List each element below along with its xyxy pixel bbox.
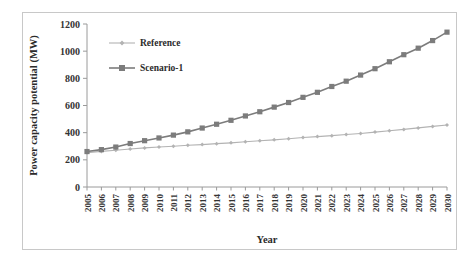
series-line-scenario-1 [87,32,447,151]
chart-figure: 0200400600800100012002005200620072008200… [0,0,476,263]
data-point-marker [431,124,435,128]
data-point-marker [373,130,377,134]
x-axis-tick-label: 2017 [255,194,265,213]
x-axis-tick-label: 2023 [342,194,352,213]
data-point-marker [330,134,334,138]
x-axis-tick-label: 2016 [241,194,251,213]
data-point-marker [186,143,190,147]
data-point-marker [143,146,147,150]
legend-marker [119,65,125,71]
data-point-marker [402,127,406,131]
data-point-marker [258,139,262,143]
data-point-marker [243,113,248,118]
data-point-marker [229,141,233,145]
data-point-marker [142,138,147,143]
x-axis-tick-label: 2030 [443,194,453,213]
x-axis-tick-label: 2009 [140,194,150,213]
x-axis-tick-label: 2015 [227,194,237,213]
y-axis-tick-label: 200 [65,154,80,165]
y-axis-title: Power capacity potential (MW) [28,35,40,176]
y-axis-tick-label: 1000 [60,46,80,57]
data-point-marker [430,38,435,43]
data-point-marker [113,144,118,149]
data-point-marker [257,109,262,114]
data-point-marker [445,123,449,127]
line-chart-canvas: 0200400600800100012002005200620072008200… [23,13,456,249]
data-point-marker [215,142,219,146]
x-axis-tick-label: 2026 [385,194,395,213]
x-axis-tick-label: 2018 [270,194,280,213]
x-axis-tick-label: 2008 [126,194,136,213]
x-axis-tick-label: 2021 [313,194,323,213]
x-axis-tick-label: 2027 [399,194,409,213]
x-axis-title: Year [257,234,278,245]
x-axis-tick-label: 2007 [111,194,121,213]
x-axis-tick-label: 2020 [299,194,309,213]
data-point-marker [272,105,277,110]
series-line-reference [87,125,447,153]
y-axis-tick-label: 400 [65,127,80,138]
data-point-marker [214,122,219,127]
data-point-marker [416,126,420,130]
data-point-marker [287,137,291,141]
data-point-marker [128,141,133,146]
data-point-marker [359,131,363,135]
x-axis-tick-label: 2024 [356,194,366,213]
x-axis-tick-label: 2014 [212,194,222,213]
data-point-marker [416,46,421,51]
x-axis-tick-label: 2019 [284,194,294,213]
data-point-marker [228,118,233,123]
data-point-marker [301,136,305,140]
x-axis-tick-label: 2006 [97,194,107,213]
data-point-marker [387,59,392,64]
data-point-marker [272,138,276,142]
y-axis-tick-label: 600 [65,100,80,111]
data-point-marker [286,100,291,105]
data-point-marker [444,30,449,35]
x-axis-tick-label: 2013 [198,194,208,213]
data-point-marker [358,72,363,77]
data-point-marker [329,84,334,89]
data-point-marker [156,135,161,140]
x-axis-tick-label: 2010 [155,194,165,213]
x-axis-tick-label: 2011 [169,194,179,212]
x-axis-tick-label: 2012 [183,194,193,213]
data-point-marker [243,140,247,144]
data-point-marker [372,66,377,71]
data-point-marker [387,129,391,133]
data-point-marker [315,90,320,95]
legend-marker [120,41,125,46]
data-point-marker [200,125,205,130]
data-point-marker [300,95,305,100]
data-point-marker [344,133,348,137]
legend-label-reference: Reference [140,38,180,48]
x-axis-tick-label: 2022 [327,194,337,213]
data-point-marker [315,135,319,139]
data-point-marker [171,144,175,148]
y-axis-tick-label: 0 [75,182,80,193]
data-point-marker [401,52,406,57]
data-point-marker [84,149,89,154]
y-axis-tick-label: 1200 [60,19,80,30]
data-point-marker [344,79,349,84]
chart-frame: 0200400600800100012002005200620072008200… [22,12,457,250]
data-point-marker [200,143,204,147]
data-point-marker [185,129,190,134]
x-axis-tick-label: 2029 [428,194,438,213]
x-axis-tick-label: 2005 [83,194,93,213]
y-axis-tick-label: 800 [65,73,80,84]
data-point-marker [171,133,176,138]
x-axis-tick-label: 2028 [414,194,424,213]
x-axis-tick-label: 2025 [371,194,381,213]
legend-label-scenario-1: Scenario-1 [140,63,184,73]
data-point-marker [128,147,132,151]
data-point-marker [157,145,161,149]
data-point-marker [99,147,104,152]
